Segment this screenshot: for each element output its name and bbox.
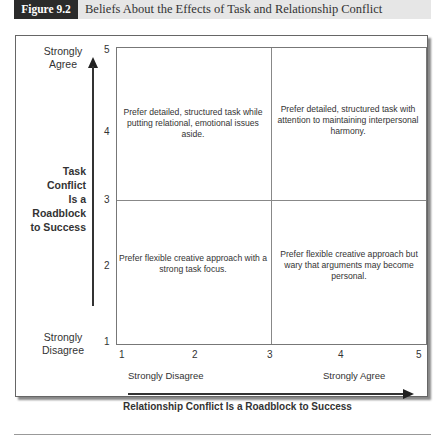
quadrant-grid [116, 47, 427, 345]
bottom-rule [14, 434, 431, 435]
y-arrow-line [92, 66, 94, 306]
x-tick: 1 [119, 349, 125, 360]
x-left-label: Strongly Disagree [128, 370, 204, 381]
y-tick: 3 [104, 194, 110, 205]
y-bottom-label-line: Disagree [36, 344, 90, 357]
y-title-line: Conflict [20, 178, 86, 192]
x-arrow-head-icon [403, 389, 414, 399]
y-title-line: Is a [20, 192, 86, 206]
y-tick: 1 [104, 336, 110, 347]
y-tick: 5 [104, 44, 110, 55]
y-bottom-label-line: Strongly [36, 331, 90, 344]
y-title-line: Roadblock [20, 206, 86, 220]
figure-header: Figure 9.2 Beliefs About the Effects of … [14, 0, 431, 19]
quadrant-top-left: Prefer detailed, structured task while p… [117, 107, 269, 140]
x-right-label: Strongly Agree [323, 370, 385, 381]
y-axis-title: Task Conflict Is a Roadblock to Success [20, 164, 86, 234]
grid-divider-vertical [271, 48, 272, 344]
y-top-label: Strongly Agree [38, 45, 88, 70]
quadrant-top-right: Prefer detailed, structured task with at… [274, 104, 422, 137]
x-tick: 3 [267, 349, 273, 360]
x-tick: 2 [192, 349, 198, 360]
y-bottom-label: Strongly Disagree [36, 331, 90, 356]
grid-divider-horizontal [117, 200, 426, 201]
x-tick: 5 [416, 349, 422, 360]
x-arrow-line [128, 393, 403, 395]
y-tick: 2 [104, 260, 110, 271]
x-tick: 4 [338, 349, 344, 360]
y-top-label-line: Agree [38, 58, 88, 71]
quadrant-bottom-left: Prefer flexible creative approach with a… [117, 253, 269, 275]
y-title-line: Task [20, 164, 86, 178]
quadrant-bottom-right: Prefer flexible creative approach but wa… [276, 249, 422, 282]
figure-label: Figure 9.2 [14, 0, 78, 19]
y-title-line: to Success [20, 220, 86, 234]
y-tick: 4 [104, 126, 110, 137]
x-axis-title: Relationship Conflict Is a Roadblock to … [123, 401, 352, 412]
y-top-label-line: Strongly [38, 45, 88, 58]
figure-title: Beliefs About the Effects of Task and Re… [85, 0, 382, 19]
